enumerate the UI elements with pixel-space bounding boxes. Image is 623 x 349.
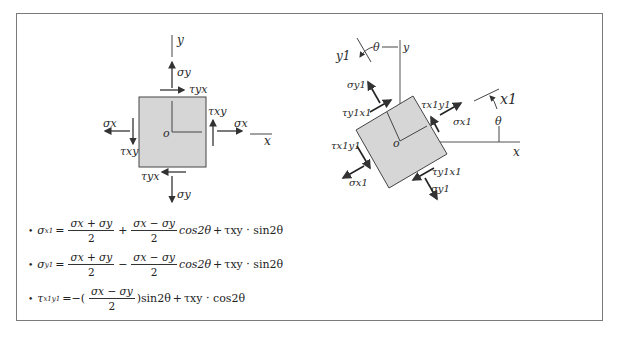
origin-label-right: o [393,137,400,150]
tau-y1x1-topleft-label: τy1x1 [342,107,372,118]
sigma-x-left-label: σx [103,117,118,130]
sigma-x1-right-label: σx1 [453,116,472,127]
y-axis-label: y [176,33,184,47]
theta-arc-top [360,47,373,57]
y1-axis-label: y1 [335,49,350,63]
formula-sigma-y1: • σy1 = σx + σy2 − σx − σy2 cos2θ + τxy … [28,252,283,277]
theta-right-label: θ [495,115,502,128]
theta-arc-right [490,96,497,109]
tau-x1y1-left-label: τx1y1 [331,140,361,151]
origin-label: o [163,127,170,140]
x-axis-label: x [264,134,271,148]
y1-axis-line [357,38,371,62]
tau-yx-bottom-label: τyx [141,170,160,183]
sigma-y1-top-arrow [368,82,380,103]
sigma-y1-top-label: σy1 [347,79,366,90]
x1-axis-label: x1 [500,91,517,107]
fraction: σx − σy2 [131,252,177,277]
tau-y1x1-bottomright-label: τy1x1 [432,166,462,177]
tau-xy-right-label: τxy [208,105,227,118]
sigma-y-bottom-label: σy [177,188,192,201]
fraction: σx + σy2 [68,218,114,243]
formula-tau-x1y1: • τx1y1 =−( σx − σy2 )sin2θ + τxy · cos2… [28,286,245,311]
tau-yx-top-label: τyx [189,83,208,96]
x1-axis-line [474,89,499,101]
sigma-x1-left-label: σx1 [349,177,368,188]
tau-y1x1-topleft-arrow [370,100,391,112]
y-axis-label-right: y [402,41,410,54]
sigma-y1-bottom-label: σy1 [431,183,450,194]
sigma-y-top-label: σy [177,66,192,79]
sigma-x-right-label: σx [234,117,249,130]
fraction: σx − σy2 [131,218,177,243]
theta-top-label: θ [373,41,380,54]
x-axis-label-right: x [513,145,520,159]
fraction: σx + σy2 [68,252,114,277]
formula-sigma-x1: • σx1 = σx + σy2 + σx − σy2 cos2θ + τxy … [28,218,283,243]
tau-xy-left-label: τxy [120,145,139,158]
fraction: σx − σy2 [89,286,135,311]
tau-x1y1-topright-label: τx1y1 [421,99,451,110]
